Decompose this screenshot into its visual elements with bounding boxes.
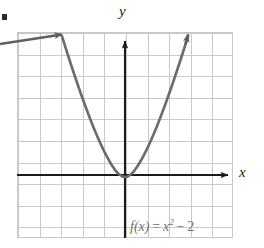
equals-sign: = [152, 219, 160, 234]
graph-drawing-layer [0, 0, 264, 248]
curve-arrow-right-icon [186, 35, 189, 45]
function-name: f(x) [130, 219, 149, 234]
function-equation-label: f(x) = x2 − 2 [130, 217, 194, 235]
y-axis-label: y [119, 3, 126, 20]
constant-2: 2 [187, 219, 194, 234]
curve-arrow-left-icon [0, 35, 62, 45]
graph-figure: y x f(x) = x2 − 2 [0, 0, 264, 248]
x-axis-label: x [239, 164, 246, 181]
